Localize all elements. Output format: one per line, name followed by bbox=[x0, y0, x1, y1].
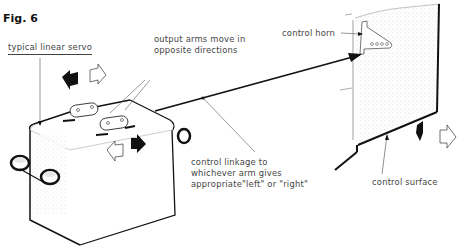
arrow-left-filled-icon bbox=[416, 121, 423, 141]
arrow-right-outline-icon bbox=[90, 64, 106, 84]
arrow-left-filled-icon bbox=[62, 70, 78, 90]
linear-servo bbox=[11, 58, 190, 245]
surface-arrows bbox=[416, 121, 456, 148]
diagram-artwork bbox=[0, 0, 467, 247]
servo-top-arrows bbox=[62, 64, 106, 90]
arrow-right-outline-icon bbox=[440, 125, 456, 148]
control-surface bbox=[335, 4, 440, 174]
